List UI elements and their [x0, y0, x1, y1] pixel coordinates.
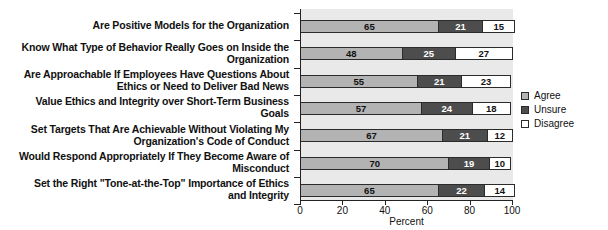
bar-segment-disagree: 14 [485, 184, 515, 197]
category-label: Know What Type of Behavior Really Goes o… [0, 41, 289, 65]
legend-label: Agree [534, 90, 561, 101]
bar-value-label: 65 [364, 185, 375, 196]
bar-value-label: 10 [494, 158, 505, 169]
legend-swatch-agree [521, 92, 529, 100]
bar-value-label: 25 [423, 48, 434, 59]
bar-segment-unsure: 25 [403, 47, 456, 60]
category-label: Set Targets That Are Achievable Without … [0, 123, 289, 147]
x-axis-line [300, 200, 513, 201]
bar-value-label: 21 [460, 130, 471, 141]
legend-swatch-disagree [521, 120, 529, 128]
x-tick-label: 80 [464, 205, 475, 216]
bar-value-label: 57 [356, 103, 367, 114]
legend-label: Disagree [534, 118, 574, 129]
bar-segment-agree: 65 [301, 184, 439, 197]
bar-value-label: 27 [479, 48, 490, 59]
x-axis-title: Percent [300, 216, 513, 227]
x-tick-label: 100 [504, 205, 521, 216]
bar-row: 482527 [301, 47, 513, 60]
y-tick [294, 68, 300, 69]
bar-value-label: 21 [455, 21, 466, 32]
bar-value-label: 67 [366, 130, 377, 141]
legend-swatch-unsure [521, 106, 529, 114]
bar-segment-disagree: 18 [473, 102, 511, 115]
bar-row: 701910 [301, 157, 513, 170]
bar-value-label: 18 [486, 103, 497, 114]
bar-segment-unsure: 21 [418, 75, 463, 88]
x-tick-label: 60 [422, 205, 433, 216]
bar-row: 552123 [301, 75, 513, 88]
bar-value-label: 70 [369, 158, 380, 169]
bar-segment-agree: 70 [301, 157, 449, 170]
category-label: Set the Right "Tone-at-the-Top" Importan… [0, 177, 289, 201]
category-label: Value Ethics and Integrity over Short-Te… [0, 95, 289, 119]
bar-segment-agree: 67 [301, 129, 443, 142]
chart-legend: AgreeUnsureDisagree [521, 89, 574, 131]
bar-value-label: 55 [354, 76, 365, 87]
bar-segment-disagree: 23 [462, 75, 511, 88]
x-tick-label: 0 [297, 205, 303, 216]
y-tick [294, 40, 300, 41]
x-tick-label: 40 [379, 205, 390, 216]
bar-row: 652115 [301, 20, 513, 33]
bar-segment-disagree: 15 [483, 20, 515, 33]
legend-item: Unsure [521, 103, 574, 116]
bar-segment-unsure: 21 [443, 129, 488, 142]
bar-segment-disagree: 10 [490, 157, 511, 170]
y-tick [294, 95, 300, 96]
bar-segment-disagree: 27 [456, 47, 513, 60]
y-tick [294, 177, 300, 178]
plot-area: 6521154825275521235724186721127019106522… [300, 9, 513, 200]
legend-item: Disagree [521, 117, 574, 130]
bar-row: 572418 [301, 102, 513, 115]
bar-row: 652214 [301, 184, 513, 197]
bar-segment-agree: 65 [301, 20, 439, 33]
bar-value-label: 12 [494, 130, 505, 141]
bar-segment-agree: 55 [301, 75, 418, 88]
stacked-bar-chart: Are Positive Models for the Organization… [0, 0, 608, 230]
bar-value-label: 65 [364, 21, 375, 32]
bar-value-label: 24 [441, 103, 452, 114]
legend-label: Unsure [534, 104, 566, 115]
bar-segment-unsure: 24 [422, 102, 473, 115]
bar-value-label: 14 [494, 185, 505, 196]
bar-value-label: 23 [481, 76, 492, 87]
bar-value-label: 19 [464, 158, 475, 169]
category-label: Are Approachable If Employees Have Quest… [0, 68, 289, 92]
bar-segment-unsure: 21 [439, 20, 484, 33]
y-tick [294, 13, 300, 14]
bar-row: 672112 [301, 129, 513, 142]
category-label: Would Respond Appropriately If They Beco… [0, 150, 289, 174]
y-tick [294, 150, 300, 151]
bar-value-label: 22 [456, 185, 467, 196]
legend-item: Agree [521, 89, 574, 102]
bar-value-label: 21 [434, 76, 445, 87]
bar-segment-disagree: 12 [488, 129, 513, 142]
bar-segment-unsure: 22 [439, 184, 486, 197]
bar-segment-agree: 57 [301, 102, 422, 115]
y-tick [294, 122, 300, 123]
category-label: Are Positive Models for the Organization [0, 19, 289, 31]
bar-value-label: 15 [493, 21, 504, 32]
x-tick-label: 20 [337, 205, 348, 216]
bar-segment-unsure: 19 [449, 157, 489, 170]
bar-segment-agree: 48 [301, 47, 403, 60]
bar-value-label: 48 [346, 48, 357, 59]
